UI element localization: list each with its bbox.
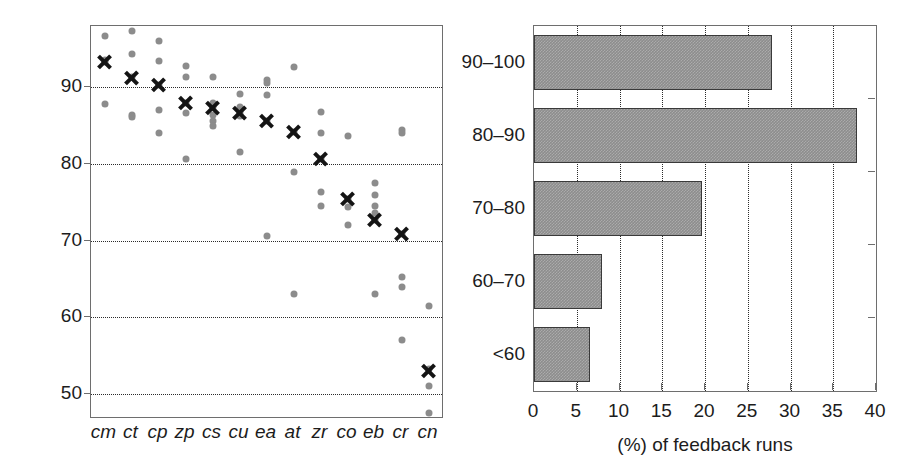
scatter-mean-marker [150,77,167,94]
scatter-mean-marker [420,363,437,380]
x-tick-mark-0 [533,383,534,390]
gridline-y-60 [91,317,442,318]
scatter-dot [155,37,162,44]
x-category-label-at: at [285,421,301,443]
x-tick-mark-40 [875,383,876,390]
x-category-label-cp: cp [147,421,167,443]
scatter-panel: Feedback accuracy (%) 5060708090 cmctcpz… [0,0,455,466]
gridline-y-50 [91,394,442,395]
x-tick-mark-20 [704,383,705,390]
x-tick-label-15: 15 [651,400,672,422]
bar-60–70 [534,254,602,309]
x-category-label-zp: zp [174,421,194,443]
y-tick-label-70: 70 [36,229,82,251]
x-category-label-ea: ea [255,421,276,443]
x-category-label-cn: cn [417,421,437,443]
scatter-dot [128,27,135,34]
scatter-mean-marker [123,70,140,87]
scatter-dot [344,132,351,139]
scatter-dot [290,168,297,175]
scatter-dot [290,291,297,298]
gridline-y-80 [91,164,442,165]
scatter-dot [236,91,243,98]
x-category-label-ct: ct [123,421,138,443]
x-tick-label-40: 40 [864,400,885,422]
scatter-mean-marker [258,113,275,130]
y-tick-label-90: 90 [36,75,82,97]
scatter-mean-marker [96,54,113,71]
scatter-dot [317,189,324,196]
scatter-dot [101,32,108,39]
x-category-label-cu: cu [228,421,248,443]
bar-y-tick-mark-3 [868,244,875,245]
x-tick-label-25: 25 [736,400,757,422]
scatter-mean-marker [366,211,383,228]
scatter-mean-marker [231,105,248,122]
y-tick-mark-60 [84,316,91,317]
scatter-mean-marker [177,94,194,111]
x-tick-label-5: 5 [570,400,581,422]
y-tick-mark-80 [84,163,91,164]
y-tick-label-50: 50 [36,382,82,404]
scatter-dot [263,233,270,240]
scatter-dot [317,203,324,210]
bar-80–90 [534,108,857,163]
x-tick-mark-30 [790,383,791,390]
scatter-dot [317,130,324,137]
scatter-dot [236,148,243,155]
bar-y-tick-mark-2 [868,171,875,172]
scatter-dot [182,74,189,81]
x-tick-label-35: 35 [822,400,843,422]
x-tick-label-20: 20 [693,400,714,422]
figure-root: Feedback accuracy (%) 5060708090 cmctcpz… [0,0,911,466]
y-tick-label-80: 80 [36,152,82,174]
bar-category-label-70–80: 70–80 [472,197,525,219]
bar-70–80 [534,181,702,236]
scatter-dot [317,108,324,115]
x-category-label-eb: eb [363,421,384,443]
scatter-dot [263,79,270,86]
x-tick-label-10: 10 [608,400,629,422]
scatter-dot [209,73,216,80]
bar-panel: 90–10080–9070–8060–70<60 051015202530354… [455,0,911,466]
scatter-dot [398,273,405,280]
scatter-dot [398,130,405,137]
gridline-y-90 [91,87,442,88]
x-tick-label-0: 0 [528,400,539,422]
scatter-dot [101,101,108,108]
x-tick-mark-10 [619,383,620,390]
scatter-dot [344,221,351,228]
x-category-label-cm: cm [91,421,116,443]
scatter-dot [155,58,162,65]
scatter-x-category-labels: cmctcpzpcscueaatzrcoebcrcn [90,421,443,449]
scatter-dot [398,337,405,344]
scatter-dot [263,92,270,99]
y-tick-label-60: 60 [36,305,82,327]
scatter-mean-marker [393,225,410,242]
bar-x-axis-title: (%) of feedback runs [533,434,877,456]
x-category-label-cs: cs [202,421,221,443]
scatter-dot [128,50,135,57]
x-tick-mark-15 [661,383,662,390]
scatter-dot [182,62,189,69]
scatter-dot [182,156,189,163]
bar-y-tick-mark-4 [868,317,875,318]
scatter-dot [371,180,378,187]
gridline-y-70 [91,241,442,242]
bar-plot-area [533,25,877,392]
bar-category-label-60–70: 60–70 [472,270,525,292]
scatter-dot [209,123,216,130]
scatter-mean-marker [285,123,302,140]
x-category-label-co: co [336,421,356,443]
y-tick-mark-90 [84,86,91,87]
bar-category-label-<60: <60 [493,343,525,365]
x-category-label-cr: cr [393,421,409,443]
scatter-mean-marker [339,190,356,207]
x-tick-mark-25 [747,383,748,390]
x-category-label-zr: zr [312,421,328,443]
bar-90–100 [534,35,772,90]
bar-category-label-80–90: 80–90 [472,124,525,146]
bar-<60 [534,327,590,382]
x-tick-mark-35 [832,383,833,390]
scatter-plot-area [90,25,443,418]
